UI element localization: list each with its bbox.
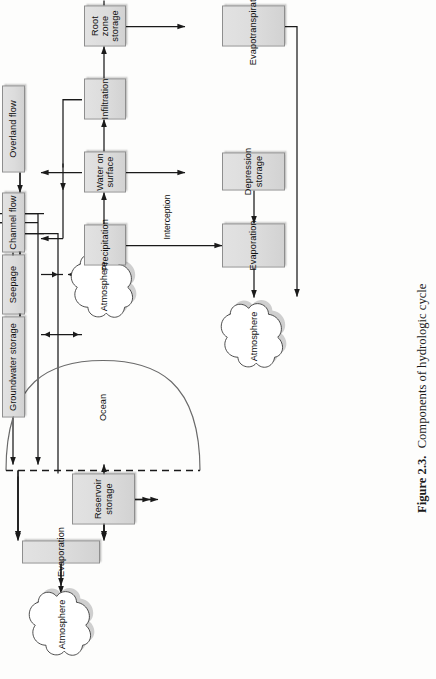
node-groundwater-storage-1[interactable]: Groundwater storage [2,316,25,417]
node-reservoir-storage[interactable]: Reservoir storage [72,473,135,524]
node-precipitation[interactable]: Precipitation [84,224,126,265]
ocean-label: Ocean [98,393,108,420]
node-evaporation-bottom[interactable]: Evaporation [222,223,285,267]
cloud-label: Atmosphere [57,599,67,649]
edge-label-interception: Interception [162,194,172,239]
node-depression-storage[interactable]: Depression storage [222,152,285,190]
node-label: Evapotranspiration [248,0,258,65]
cloud-atmosphere-top: Atmosphere [20,587,104,661]
node-infiltration[interactable]: Infiltration [84,78,126,119]
scanned-page: Atmosphere Atmosphere Atmosphere [0,0,436,679]
cloud-label: Atmosphere [249,311,259,361]
node-water-on-surface[interactable]: Water on surface [84,151,126,192]
node-label: Root zone storage [90,6,121,45]
figure-container: Atmosphere Atmosphere Atmosphere [0,0,436,679]
node-label: Water on surface [95,152,116,191]
node-label: Channel flow [8,195,18,249]
node-root-zone-storage[interactable]: Root zone storage [84,5,126,46]
node-evapotranspiration[interactable]: Evapotranspiration [222,5,285,46]
node-label: Infiltration [100,78,110,119]
node-label: Overland flow [8,100,18,157]
node-seepage[interactable]: Seepage [2,254,25,314]
node-label: Reservoir storage [93,476,114,522]
ocean-shape: Ocean [0,358,208,476]
figure-caption-text: Components of hydrologic cycle [415,284,429,449]
hydrologic-cycle-diagram: Atmosphere Atmosphere Atmosphere [0,0,436,679]
cloud-label: Atmosphere [99,261,109,311]
figure-caption: Figure 2.3. Components of hydrologic cyc… [415,284,430,513]
node-label: Evaporation [248,220,258,270]
figure-caption-label: Figure 2.3. [415,456,429,513]
node-label: Depression storage [243,147,264,194]
node-label: Evaporation [56,526,66,576]
node-channel-flow[interactable]: Channel flow [2,192,25,252]
node-label: Groundwater storage [8,322,18,410]
node-overland-flow[interactable]: Overland flow [2,85,25,172]
node-label: Seepage [8,265,18,302]
node-evaporation-top[interactable]: Evaporation [22,540,100,563]
cloud-atmosphere-bottom: Atmosphere [212,299,296,373]
